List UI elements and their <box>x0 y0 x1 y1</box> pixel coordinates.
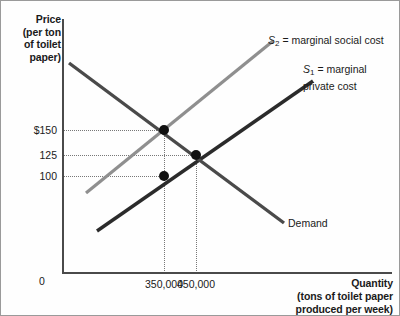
supply-s2-label-text: = marginal social cost <box>279 34 383 46</box>
supply-s2-line <box>86 41 273 193</box>
supply-s2-label: S2 = marginal social cost <box>268 34 384 51</box>
supply-s1-symbol: S <box>303 63 310 75</box>
supply-s1-label: S1 = marginal private cost <box>303 63 367 92</box>
y-tick-label-100: 100 <box>1 170 57 182</box>
marker-private-equilibrium <box>191 150 201 160</box>
y-tick-label-150: $150 <box>1 124 57 136</box>
demand-line <box>69 63 284 223</box>
y-axis-line <box>62 19 64 274</box>
y-tick-label-125: 125 <box>1 149 57 161</box>
x-axis-line <box>62 272 392 274</box>
x-tick-label-450000: 450,000 <box>164 278 228 290</box>
y-axis-title: Price (per ton of toilet paper) <box>1 13 61 63</box>
marker-private-cost-at-350k <box>159 171 169 181</box>
demand-label: Demand <box>288 217 328 230</box>
origin-label: 0 <box>39 275 45 287</box>
marker-social-equilibrium <box>159 125 169 135</box>
supply-s2-symbol: S <box>268 34 275 46</box>
externality-chart-figure: Price (per ton of toilet paper) Quantity… <box>0 0 400 316</box>
